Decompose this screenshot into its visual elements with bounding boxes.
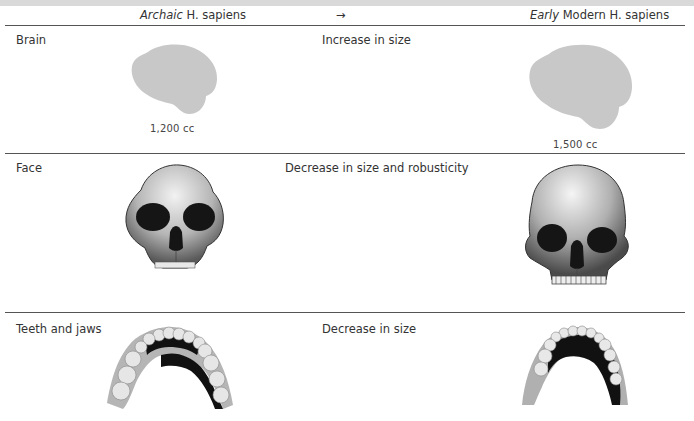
row-label-teeth: Teeth and jaws <box>16 322 102 336</box>
caption-modern-brain: 1,500 cc <box>553 139 597 150</box>
modern-jaw-icon <box>520 325 630 407</box>
top-band <box>0 0 694 6</box>
header-archaic: Archaic H. sapiens <box>140 8 246 22</box>
brain-icon <box>128 42 220 118</box>
header-archaic-italic: Archaic <box>140 8 183 22</box>
caption-archaic-brain: 1,200 cc <box>150 123 194 134</box>
change-teeth: Decrease in size <box>322 322 416 336</box>
brain-icon-modern <box>525 42 637 134</box>
row-rule-1 <box>5 153 685 154</box>
row-rule-2 <box>5 312 685 313</box>
header-archaic-rest: H. sapiens <box>183 8 246 22</box>
header-modern-rest: Modern H. sapiens <box>559 8 669 22</box>
archaic-jaw-icon <box>105 325 235 411</box>
row-label-brain: Brain <box>16 33 46 47</box>
header-modern-italic: Early <box>530 8 559 22</box>
archaic-skull-icon <box>123 162 229 274</box>
header-rule <box>5 25 685 26</box>
header-modern: Early Modern H. sapiens <box>530 8 669 22</box>
row-label-face: Face <box>16 161 42 175</box>
change-brain: Increase in size <box>322 33 411 47</box>
change-face: Decrease in size and robusticity <box>285 161 469 175</box>
header-arrow: → <box>336 8 346 22</box>
modern-skull-icon <box>522 162 632 292</box>
